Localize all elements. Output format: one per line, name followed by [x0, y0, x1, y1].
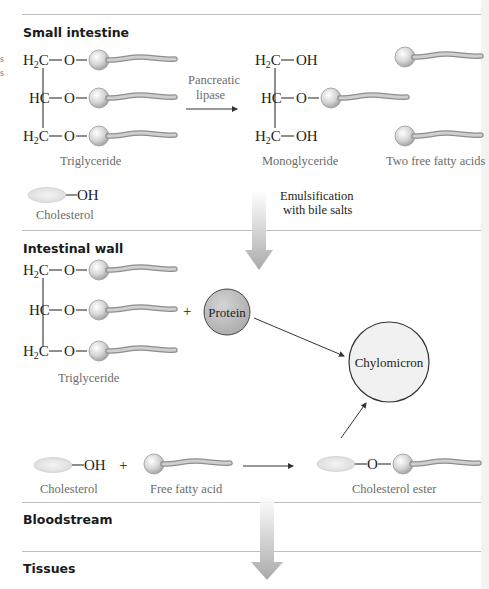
- page-edge: [481, 0, 489, 589]
- svg-text:OH: OH: [77, 187, 99, 203]
- cholesterol-ester-caption: Cholesterol ester: [352, 482, 437, 496]
- svg-text:H2C: H2C: [23, 128, 49, 146]
- protein-label: Protein: [208, 305, 246, 320]
- section-bloodstream: Bloodstream: [23, 512, 112, 527]
- svg-text:OH: OH: [296, 128, 318, 144]
- section-tissues: Tissues: [23, 561, 76, 576]
- margin-text-fragment: s: [0, 53, 4, 64]
- svg-text:O: O: [64, 343, 75, 359]
- monoglyceride: H2C OH HC O H2C OH Monoglyceride: [255, 52, 407, 168]
- svg-text:HC: HC: [29, 90, 50, 106]
- arrow-protein-to-chylomicron: [254, 318, 344, 356]
- svg-text:HC: HC: [261, 90, 282, 106]
- svg-text:H2C: H2C: [23, 52, 49, 70]
- chylomicron-circle: Chylomicron: [349, 322, 429, 402]
- two-free-fatty-acids: Two free fatty acids: [386, 47, 486, 168]
- svg-text:H2C: H2C: [255, 128, 281, 146]
- protein-circle: Protein: [204, 289, 250, 335]
- free-fatty-acid: Free fatty acid: [144, 454, 230, 496]
- flow-arrow-down-bloodstream: [251, 494, 283, 580]
- svg-text:O: O: [64, 128, 75, 144]
- svg-text:H2C: H2C: [255, 52, 281, 70]
- triglyceride-caption: Triglyceride: [58, 371, 120, 385]
- cholesterol-intestinal-wall: OH Cholesterol: [34, 457, 106, 496]
- triglyceride-intestinal-wall: H2C O HC O H2C O Triglyceride: [23, 260, 175, 385]
- svg-text:H2C: H2C: [23, 343, 49, 361]
- cholesterol-ester: O Cholesterol ester: [317, 454, 479, 496]
- cholesterol-caption: Cholesterol: [40, 482, 98, 496]
- free-fatty-acid-caption: Free fatty acid: [150, 482, 223, 496]
- emulsification-label-2: with bile salts: [283, 203, 353, 217]
- fatty-acids-caption: Two free fatty acids: [386, 154, 486, 168]
- svg-text:O: O: [64, 302, 75, 318]
- svg-text:HC: HC: [29, 302, 50, 318]
- lipid-digestion-diagram: s s Small intestine Intestinal wall Bloo…: [0, 0, 489, 589]
- section-intestinal-wall: Intestinal wall: [23, 241, 123, 256]
- arrow-ester-to-chylomicron: [341, 403, 366, 438]
- svg-text:O: O: [64, 52, 75, 68]
- svg-text:O: O: [64, 262, 75, 278]
- svg-text:O: O: [367, 456, 378, 472]
- svg-text:lipase: lipase: [196, 88, 226, 102]
- svg-text:O: O: [64, 90, 75, 106]
- margin-text-fragment: s: [0, 67, 4, 78]
- triglyceride-small-intestine: H2C O HC O H2C O Triglyceride: [23, 50, 175, 168]
- pancreatic-lipase-arrow: Pancreatic lipase: [186, 73, 241, 109]
- chylomicron-label: Chylomicron: [355, 355, 424, 370]
- section-small-intestine: Small intestine: [23, 25, 129, 40]
- svg-text:O: O: [296, 90, 307, 106]
- emulsification-label: Emulsification: [280, 189, 354, 203]
- monoglyceride-caption: Monoglyceride: [262, 154, 339, 168]
- svg-text:OH: OH: [84, 457, 106, 473]
- svg-text:H2C: H2C: [23, 262, 49, 280]
- svg-text:Pancreatic: Pancreatic: [188, 73, 241, 87]
- cholesterol-small-intestine: OH Cholesterol: [28, 187, 99, 222]
- plus-sign: +: [119, 457, 127, 473]
- plus-sign: +: [183, 303, 191, 319]
- cholesterol-caption: Cholesterol: [36, 208, 94, 222]
- svg-text:OH: OH: [296, 52, 318, 68]
- triglyceride-caption: Triglyceride: [60, 154, 122, 168]
